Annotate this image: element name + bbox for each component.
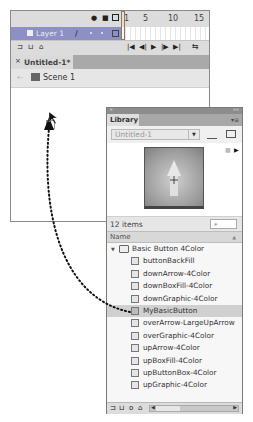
search-input[interactable]: ⌕ xyxy=(210,219,237,229)
visibility-dot[interactable] xyxy=(90,32,92,34)
eye-icon[interactable]: ● xyxy=(91,14,97,22)
outline-icon[interactable] xyxy=(112,14,119,21)
list-item[interactable]: buttonBackFill xyxy=(107,255,242,267)
list-item[interactable]: upGraphic-4Color xyxy=(107,379,242,391)
list-item[interactable]: upArrow-4Color xyxy=(107,342,242,354)
graphic-symbol-icon xyxy=(131,369,139,377)
item-label: downGraphic-4Color xyxy=(143,293,217,305)
tab-label: Untitled-1* xyxy=(24,58,70,67)
edit-bar: ← Scene 1 xyxy=(11,69,209,88)
list-item[interactable]: upButtonBox-4Color xyxy=(107,367,242,379)
item-count: 12 items xyxy=(110,220,143,229)
library-tab-row: Library ▾≡ xyxy=(107,114,242,126)
layer-type-icon xyxy=(27,30,33,36)
tab-close-icon[interactable]: × xyxy=(15,57,21,65)
button-instance[interactable] xyxy=(46,120,55,129)
new-folder-icon[interactable]: ⊔ xyxy=(28,43,33,51)
panel-menu-icon[interactable]: ▾≡ xyxy=(231,116,239,123)
play-icon[interactable]: ▶ xyxy=(234,146,239,153)
graphic-symbol-icon xyxy=(131,319,139,327)
item-label: upArrow-4Color xyxy=(143,342,200,354)
play-icon[interactable]: ▶ xyxy=(151,43,156,51)
frame-number-10: 10 xyxy=(168,14,178,23)
graphic-symbol-icon xyxy=(131,344,139,352)
new-library-panel-icon[interactable] xyxy=(226,130,236,138)
list-item[interactable]: overGraphic-4Color xyxy=(107,330,242,342)
list-item[interactable]: downGraphic-4Color xyxy=(107,293,242,305)
graphic-symbol-icon xyxy=(131,270,139,278)
tab-untitled-1[interactable]: × Untitled-1* xyxy=(11,55,73,69)
folder-icon xyxy=(119,245,129,253)
item-label: Basic Button 4Color xyxy=(132,243,204,255)
library-count-row: 12 items ⌕ xyxy=(107,216,242,232)
document-select-value: Untitled-1 xyxy=(115,130,152,139)
close-icon[interactable]: × xyxy=(109,106,113,112)
scene-label[interactable]: Scene 1 xyxy=(43,73,75,82)
new-folder-icon[interactable]: ⊔ xyxy=(119,404,124,412)
graphic-symbol-icon xyxy=(131,257,139,265)
item-label: downArrow-4Color xyxy=(143,268,210,280)
scroll-right-icon[interactable]: ▶ xyxy=(233,404,237,410)
column-name-label: Name xyxy=(110,233,131,241)
symbol-preview xyxy=(144,147,204,209)
graphic-symbol-icon xyxy=(131,357,139,365)
document-select[interactable]: Untitled-1 ▼ xyxy=(111,129,200,140)
pin-icon[interactable] xyxy=(207,130,217,139)
new-symbol-icon[interactable]: ⊐ xyxy=(110,404,116,412)
go-to-last-frame-icon[interactable]: ▶| xyxy=(173,43,181,51)
graphic-symbol-icon xyxy=(131,381,139,389)
item-label: buttonBackFill xyxy=(143,255,195,267)
list-item[interactable]: upBoxFill-4Color xyxy=(107,355,242,367)
document-tabs: × Untitled-1* xyxy=(11,55,209,69)
layer-row[interactable]: Layer 1 ∕ xyxy=(11,27,209,40)
graphic-symbol-icon xyxy=(131,295,139,303)
library-doc-row: Untitled-1 ▼ xyxy=(107,126,242,143)
item-label: overGraphic-4Color xyxy=(143,330,214,342)
playhead[interactable] xyxy=(121,11,125,40)
delete-layer-icon[interactable]: ⌂ xyxy=(39,43,43,51)
stop-icon[interactable]: ■ xyxy=(225,146,231,153)
chevron-down-icon[interactable]: ▼ xyxy=(188,130,199,139)
delete-icon[interactable]: ⌂ xyxy=(138,404,142,412)
pencil-icon: ∕ xyxy=(75,27,78,40)
graphic-symbol-icon xyxy=(131,282,139,290)
item-label: upButtonBox-4Color xyxy=(143,367,217,379)
loop-icon[interactable]: ⇆ xyxy=(192,42,199,51)
library-tab[interactable]: Library xyxy=(107,114,139,126)
item-label: overArrow-LargeUpArrow xyxy=(143,317,235,329)
library-panel: × «« Library ▾≡ Untitled-1 ▼ ■ ▶ 12 item… xyxy=(106,107,243,414)
scroll-thumb[interactable] xyxy=(156,406,180,411)
outline-toggle[interactable] xyxy=(112,30,119,37)
up-arrow-graphic xyxy=(145,148,203,206)
back-arrow-icon[interactable]: ← xyxy=(17,73,24,82)
item-label: upBoxFill-4Color xyxy=(143,355,202,367)
go-to-first-frame-icon[interactable]: |◀ xyxy=(127,43,135,51)
name-column-header[interactable]: Name ▲ xyxy=(107,231,242,243)
list-item-folder[interactable]: ▼ Basic Button 4Color xyxy=(107,243,242,255)
expand-triangle-icon[interactable]: ▼ xyxy=(111,243,115,255)
list-item[interactable]: downBoxFill-4Color xyxy=(107,280,242,292)
new-layer-icon[interactable]: ⊐ xyxy=(17,43,23,51)
sort-ascending-icon[interactable]: ▲ xyxy=(232,232,236,242)
timeline-header: ● ■ 1 5 10 15 xyxy=(11,11,209,28)
list-item-selected[interactable]: MyBasicButton xyxy=(107,305,242,317)
scene-icon xyxy=(31,73,40,81)
scroll-left-icon[interactable]: ◀ xyxy=(151,404,155,410)
list-item[interactable]: overArrow-LargeUpArrow xyxy=(107,317,242,329)
frame-number-15: 15 xyxy=(194,14,204,23)
lock-icon[interactable]: ■ xyxy=(102,14,109,22)
horizontal-scrollbar[interactable]: ◀ ▶ xyxy=(149,405,239,412)
item-label: downBoxFill-4Color xyxy=(143,280,212,292)
layer-name[interactable]: Layer 1 xyxy=(36,27,64,40)
lock-dot[interactable] xyxy=(101,32,103,34)
button-symbol-icon xyxy=(131,307,139,315)
step-back-icon[interactable]: ◀| xyxy=(139,43,147,51)
layer-1-selected[interactable]: Layer 1 ∕ xyxy=(11,27,121,40)
library-bottom-bar: ⊐ ⊔ o ⌂ ◀ ▶ xyxy=(107,402,242,414)
frame-strip[interactable] xyxy=(121,27,209,40)
item-label: upGraphic-4Color xyxy=(143,379,207,391)
collapse-icon[interactable]: «« xyxy=(233,106,239,112)
step-forward-icon[interactable]: |▶ xyxy=(161,43,169,51)
list-item[interactable]: downArrow-4Color xyxy=(107,268,242,280)
properties-icon[interactable]: o xyxy=(129,404,133,412)
